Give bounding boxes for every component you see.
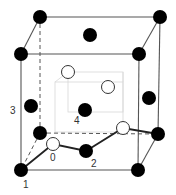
interstitial-upper-left <box>62 66 75 79</box>
unit-cell-diagram: 0 1 2 3 4 <box>0 0 176 195</box>
label-3: 3 <box>10 105 16 116</box>
atom-face-left <box>24 99 38 113</box>
label-1: 1 <box>23 179 29 190</box>
atom-corner-front-bottom-left <box>14 163 28 177</box>
atom-corner-back-top-left <box>33 10 47 24</box>
atom-corner-front-top-left <box>14 47 28 61</box>
atom-center-4 <box>78 103 92 117</box>
atom-face-bottom-2 <box>79 144 93 158</box>
atom-face-right <box>142 91 156 105</box>
atom-corner-back-top-right <box>153 10 167 24</box>
inner-guide-box <box>55 72 123 132</box>
label-4: 4 <box>74 115 80 126</box>
label-2: 2 <box>91 158 97 169</box>
atom-corner-front-top-right <box>132 47 146 61</box>
atom-corner-front-bottom-right <box>131 163 145 177</box>
interstitial-0 <box>47 138 60 151</box>
filled-atoms <box>14 10 167 177</box>
atom-corner-back-bottom-right <box>151 127 165 141</box>
atom-face-top <box>83 28 97 42</box>
label-0: 0 <box>50 152 56 163</box>
interstitial-upper-right <box>102 81 115 94</box>
interstitial-lower-right <box>117 122 130 135</box>
atom-corner-back-bottom-left <box>33 126 47 140</box>
